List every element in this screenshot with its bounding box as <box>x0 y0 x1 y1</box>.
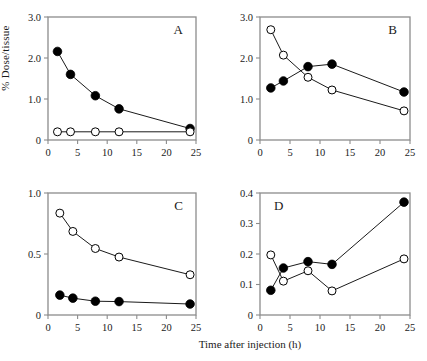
panel-a: 051015202501.02.03.0A <box>0 0 214 181</box>
data-point-open <box>304 267 312 275</box>
data-point-filled <box>400 198 409 207</box>
svg-text:1.0: 1.0 <box>28 188 41 199</box>
data-point-filled <box>53 47 62 56</box>
data-point-open <box>186 271 194 279</box>
data-point-filled <box>66 70 75 79</box>
svg-text:10: 10 <box>102 322 113 333</box>
plot-d: 051015202500.10.20.30.4D <box>214 181 427 361</box>
svg-text:0: 0 <box>248 135 253 146</box>
svg-text:1.0: 1.0 <box>240 94 253 105</box>
data-point-open <box>115 128 123 136</box>
svg-text:20: 20 <box>375 147 386 158</box>
data-point-filled <box>304 62 313 71</box>
data-point-open <box>91 245 99 253</box>
data-point-open <box>328 287 336 295</box>
panel-letter-c: C <box>174 198 183 213</box>
svg-text:0: 0 <box>45 147 50 158</box>
panel-b: 051015202501.02.03.0B <box>214 0 427 181</box>
svg-text:0: 0 <box>36 135 41 146</box>
data-point-open <box>91 128 99 136</box>
data-point-filled <box>91 91 100 100</box>
plot-a: 051015202501.02.03.0A <box>0 0 214 181</box>
svg-text:0: 0 <box>36 310 41 321</box>
svg-text:0: 0 <box>248 310 253 321</box>
data-point-filled <box>328 260 337 269</box>
svg-text:2.0: 2.0 <box>28 53 41 64</box>
data-point-open <box>304 73 312 81</box>
svg-text:20: 20 <box>161 147 172 158</box>
data-point-filled <box>186 300 195 309</box>
data-point-open <box>115 253 123 261</box>
svg-text:15: 15 <box>132 147 143 158</box>
svg-text:5: 5 <box>287 322 292 333</box>
svg-text:25: 25 <box>405 147 416 158</box>
svg-text:1.0: 1.0 <box>28 94 41 105</box>
data-point-filled <box>56 291 65 300</box>
data-point-open <box>267 26 275 34</box>
data-point-filled <box>115 105 124 114</box>
series-line-filled <box>271 202 404 290</box>
svg-text:3.0: 3.0 <box>28 12 41 23</box>
svg-text:0.2: 0.2 <box>240 249 253 260</box>
svg-text:0: 0 <box>257 322 262 333</box>
data-point-filled <box>267 286 276 295</box>
panel-letter-a: A <box>174 22 184 37</box>
data-point-open <box>67 128 75 136</box>
data-point-open <box>267 251 275 259</box>
svg-text:5: 5 <box>75 147 80 158</box>
svg-text:0: 0 <box>45 322 50 333</box>
panel-letter-b: B <box>388 22 397 37</box>
svg-text:20: 20 <box>375 322 386 333</box>
data-point-filled <box>328 60 337 69</box>
data-point-open <box>186 128 194 136</box>
series-line-open <box>60 213 190 275</box>
svg-text:25: 25 <box>191 147 202 158</box>
svg-text:5: 5 <box>287 147 292 158</box>
panel-d: 051015202500.10.20.30.4D <box>214 181 427 361</box>
series-line-filled <box>57 51 190 128</box>
svg-text:10: 10 <box>315 147 326 158</box>
figure-root: % Dose/tissue Time after injection (h) 0… <box>0 0 427 361</box>
svg-text:0.5: 0.5 <box>28 249 41 260</box>
data-point-open <box>53 128 61 136</box>
data-point-open <box>328 86 336 94</box>
data-point-filled <box>304 257 313 266</box>
data-point-filled <box>400 88 409 97</box>
plot-b: 051015202501.02.03.0B <box>214 0 427 181</box>
data-point-filled <box>91 297 100 306</box>
svg-text:0: 0 <box>257 147 262 158</box>
svg-text:0.1: 0.1 <box>240 279 253 290</box>
svg-text:5: 5 <box>75 322 80 333</box>
data-point-open <box>279 277 287 285</box>
svg-text:0.4: 0.4 <box>240 188 254 199</box>
svg-text:10: 10 <box>102 147 113 158</box>
svg-text:3.0: 3.0 <box>240 12 253 23</box>
svg-text:2.0: 2.0 <box>240 53 253 64</box>
data-point-filled <box>115 297 124 306</box>
data-point-open <box>279 51 287 59</box>
svg-text:10: 10 <box>315 322 326 333</box>
data-point-filled <box>267 84 276 93</box>
svg-text:20: 20 <box>161 322 172 333</box>
svg-text:15: 15 <box>132 322 143 333</box>
data-point-filled <box>279 77 288 86</box>
data-point-filled <box>69 294 78 303</box>
svg-text:25: 25 <box>405 322 416 333</box>
data-point-filled <box>279 264 288 273</box>
svg-text:25: 25 <box>191 322 202 333</box>
plot-c: 051015202500.51.0C <box>0 181 214 361</box>
data-point-open <box>400 255 408 263</box>
series-line-open <box>271 255 404 291</box>
series-line-filled <box>271 64 404 92</box>
panel-c: 051015202500.51.0C <box>0 181 214 361</box>
panel-letter-d: D <box>274 198 283 213</box>
data-point-open <box>56 209 64 217</box>
series-line-open <box>271 30 404 111</box>
svg-text:0.3: 0.3 <box>240 218 253 229</box>
data-point-open <box>400 107 408 115</box>
svg-text:15: 15 <box>345 147 356 158</box>
series-line-filled <box>60 295 190 304</box>
svg-text:15: 15 <box>345 322 356 333</box>
data-point-open <box>69 227 77 235</box>
